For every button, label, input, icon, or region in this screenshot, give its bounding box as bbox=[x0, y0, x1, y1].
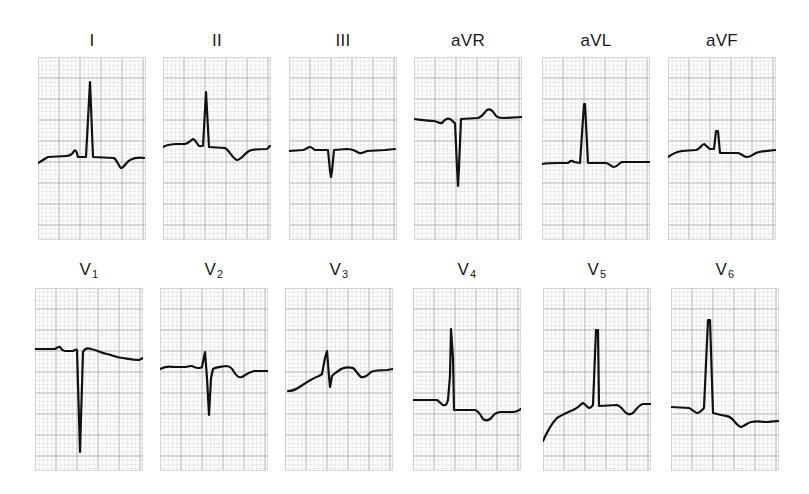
lead-label-iii: III bbox=[273, 31, 413, 51]
lead-subscript: 4 bbox=[470, 268, 476, 280]
lead-label-avl: aVL bbox=[526, 31, 666, 51]
ecg-panel-v5 bbox=[543, 288, 651, 471]
lead-label-v1: V1 bbox=[19, 260, 159, 280]
lead-label-avf: aVF bbox=[652, 31, 792, 51]
ecg-panel-avf bbox=[668, 57, 776, 240]
lead-subscript: 2 bbox=[217, 268, 223, 280]
ecg-grid bbox=[289, 57, 397, 240]
ecg-panel-v6 bbox=[671, 288, 779, 471]
ecg-panel-v1 bbox=[35, 288, 143, 471]
ecg-panel-v2 bbox=[160, 288, 268, 471]
lead-name: II bbox=[212, 31, 222, 50]
lead-label-v6: V6 bbox=[655, 260, 795, 280]
lead-name: aVR bbox=[451, 31, 485, 50]
lead-name: V bbox=[204, 260, 216, 279]
lead-label-i: I bbox=[22, 31, 162, 51]
lead-name: aVL bbox=[580, 31, 611, 50]
lead-label-avr: aVR bbox=[398, 31, 538, 51]
ecg-grid bbox=[668, 57, 776, 240]
lead-subscript: 6 bbox=[728, 268, 734, 280]
lead-name: I bbox=[89, 31, 94, 50]
lead-name: aVF bbox=[706, 31, 738, 50]
ecg-grid bbox=[163, 57, 271, 240]
ecg-grid bbox=[671, 288, 779, 471]
ecg-panel-v3 bbox=[285, 288, 393, 471]
lead-subscript: 3 bbox=[342, 268, 348, 280]
ecg-grid bbox=[160, 288, 268, 471]
ecg-panel-i bbox=[38, 57, 146, 240]
lead-label-v4: V4 bbox=[397, 260, 537, 280]
lead-subscript: 5 bbox=[600, 268, 606, 280]
lead-label-v3: V3 bbox=[269, 260, 409, 280]
ecg-grid bbox=[38, 57, 146, 240]
lead-label-ii: II bbox=[147, 31, 287, 51]
ecg-panel-avl bbox=[542, 57, 650, 240]
ecg-panel-avr bbox=[414, 57, 522, 240]
ecg-panel-v4 bbox=[413, 288, 521, 471]
lead-name: III bbox=[335, 31, 350, 50]
lead-name: V bbox=[587, 260, 599, 279]
ecg-grid bbox=[542, 57, 650, 240]
lead-name: V bbox=[79, 260, 91, 279]
lead-name: V bbox=[457, 260, 469, 279]
ecg-grid bbox=[285, 288, 393, 471]
lead-subscript: 1 bbox=[92, 268, 98, 280]
ecg-grid bbox=[414, 57, 522, 240]
ecg-panel-ii bbox=[163, 57, 271, 240]
lead-name: V bbox=[329, 260, 341, 279]
ecg-panel-iii bbox=[289, 57, 397, 240]
lead-label-v5: V5 bbox=[527, 260, 667, 280]
ecg-grid bbox=[413, 288, 521, 471]
lead-name: V bbox=[715, 260, 727, 279]
ecg-grid bbox=[543, 288, 651, 471]
ecg-grid bbox=[35, 288, 143, 471]
lead-label-v2: V2 bbox=[144, 260, 284, 280]
